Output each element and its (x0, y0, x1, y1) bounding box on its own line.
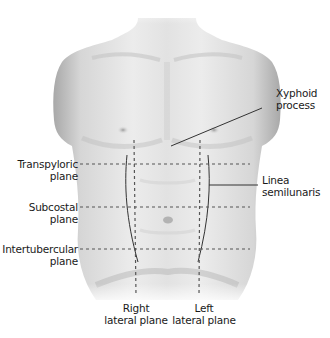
label-line: plane (0, 170, 78, 182)
label-line: Linea (262, 174, 320, 186)
linea-semilunaris-label: Linea semilunaris (262, 174, 320, 198)
label-line: Xyphoid (276, 87, 317, 99)
label-line: plane (0, 213, 78, 225)
intertubercular-plane-label: Intertubercular plane (0, 243, 78, 267)
label-line: plane (0, 255, 78, 267)
transpyloric-plane-label: Transpyloric plane (0, 158, 78, 182)
label-line: semilunaris (262, 186, 320, 198)
label-line: Left (164, 302, 244, 314)
label-line: Transpyloric (0, 158, 78, 170)
anatomy-diagram: Xyphoid process Transpyloric plane Subco… (0, 0, 330, 338)
left-lateral-plane-label: Left lateral plane (164, 302, 244, 326)
subcostal-plane-label: Subcostal plane (0, 201, 78, 225)
label-line: lateral plane (164, 314, 244, 326)
label-line: process (276, 99, 317, 111)
label-line: Subcostal (0, 201, 78, 213)
xyphoid-process-label: Xyphoid process (276, 87, 317, 111)
label-line: Intertubercular (0, 243, 78, 255)
